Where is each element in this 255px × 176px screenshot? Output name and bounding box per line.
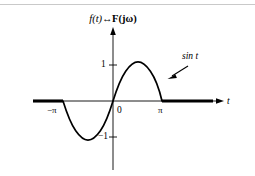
x-tick-label-negative-pi: −π (47, 106, 57, 115)
transform-pair-label: f(t)↔F(jω) (89, 14, 136, 25)
origin-tick-label: 0 (117, 106, 122, 116)
y-tick-label-negative-one: −1 (98, 132, 108, 142)
frequency-domain-label: F(jω) (112, 13, 137, 24)
annotation-leader-line (172, 66, 188, 76)
correspondence-arrow-icon: ↔ (102, 13, 112, 24)
y-tick-label-one: 1 (101, 60, 106, 70)
annotation-leader-arrow (168, 66, 189, 79)
x-axis-arrowhead (216, 98, 224, 104)
x-tick-label-pi: π (158, 106, 163, 115)
plot-canvas (0, 0, 255, 176)
x-axis-label: t (227, 97, 230, 107)
time-domain-label: f(t) (89, 13, 102, 24)
figure-container: f(t)↔F(jω) sin t t 0 −π π 1 −1 (0, 0, 255, 176)
sin-t-annotation-label: sin t (182, 52, 198, 62)
y-axis-arrowhead (110, 27, 116, 35)
